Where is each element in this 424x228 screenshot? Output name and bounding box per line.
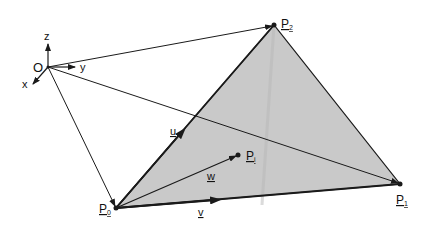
vector-u-label: u	[170, 125, 176, 137]
line-O-P0	[48, 67, 115, 206]
point-Pi-dot	[236, 153, 241, 158]
point-P2-dot	[272, 23, 277, 28]
triangle-plane	[116, 25, 400, 208]
point-P0-label: P0	[99, 202, 111, 216]
diagram-svg: O z y x P2 P1 P0 Pi u w v	[0, 0, 424, 228]
point-P1-label: P1	[396, 193, 408, 207]
point-P2-label: P2	[281, 17, 293, 31]
axis-y-label: y	[80, 61, 86, 73]
axis-x-label: x	[22, 78, 28, 90]
vector-w-label: w	[206, 170, 215, 182]
origin-dot	[47, 66, 50, 69]
vector-v-label: v	[198, 206, 204, 218]
point-P0-dot	[114, 206, 119, 211]
diagram-canvas: O z y x P2 P1 P0 Pi u w v	[0, 0, 424, 228]
point-P1-dot	[398, 182, 403, 187]
origin-label: O	[33, 60, 43, 75]
axis-z-label: z	[44, 30, 50, 42]
